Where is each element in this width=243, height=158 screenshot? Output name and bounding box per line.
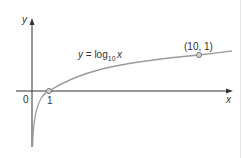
origin-label: 0 — [23, 94, 29, 105]
tick-label-1: 1 — [47, 95, 53, 106]
equation-label: y = log10x — [77, 49, 123, 62]
y-axis-arrow-icon — [30, 18, 35, 25]
point-10-1 — [196, 52, 201, 57]
point-1-0 — [46, 88, 51, 93]
log-graph: y x 0 1 (10, 1) y = log10x — [0, 0, 243, 158]
y-axis-label: y — [21, 14, 28, 25]
x-axis-arrow-icon — [226, 89, 233, 94]
x-axis-label: x — [225, 94, 232, 105]
log-curve — [33, 51, 232, 146]
point-label: (10, 1) — [184, 41, 213, 52]
